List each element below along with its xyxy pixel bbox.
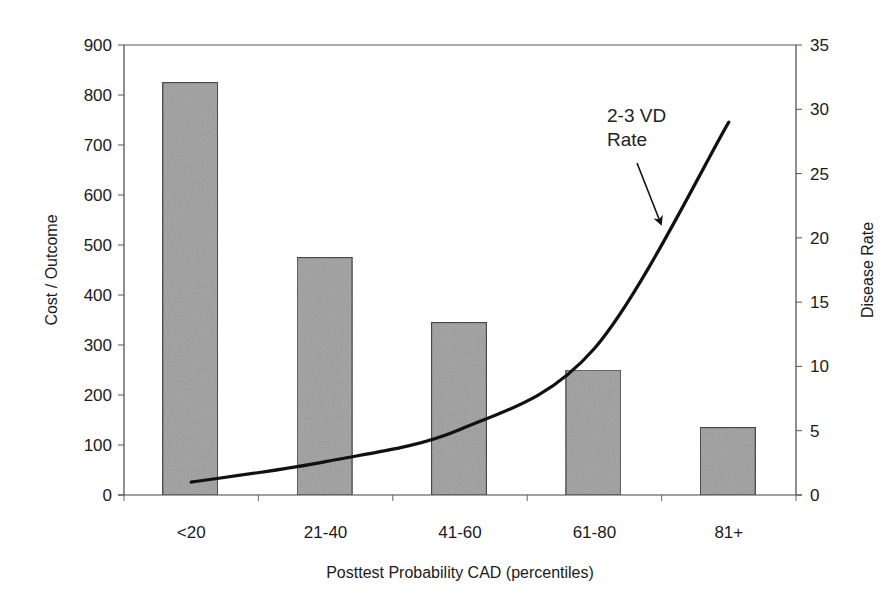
left-tick-label: 100: [84, 436, 112, 455]
x-axis-title: Posttest Probability CAD (percentiles): [326, 564, 594, 581]
right-tick-label: 5: [810, 422, 819, 441]
line-annotation: 2-3 VD Rate: [607, 105, 666, 224]
x-ticks: <2021-4041-6061-8081+: [124, 495, 796, 542]
right-tick-label: 0: [810, 486, 819, 505]
right-tick-label: 15: [810, 293, 829, 312]
right-y-ticks: 05101520253035: [796, 36, 829, 505]
disease-rate-curve: [191, 122, 729, 482]
x-tick-label: 41-60: [438, 523, 481, 542]
left-tick-label: 300: [84, 336, 112, 355]
left-y-axis-title: Cost / Outcome: [43, 214, 60, 325]
line-series: [191, 122, 729, 482]
right-tick-label: 30: [810, 100, 829, 119]
bar-series: [163, 83, 756, 496]
left-tick-label: 500: [84, 236, 112, 255]
left-tick-label: 900: [84, 36, 112, 55]
x-tick-label: 61-80: [573, 523, 616, 542]
x-tick-label: 21-40: [304, 523, 347, 542]
annotation-line2: Rate: [607, 129, 647, 150]
right-tick-label: 35: [810, 36, 829, 55]
bar: [700, 428, 755, 496]
left-tick-label: 200: [84, 386, 112, 405]
x-tick-label: 81+: [714, 523, 743, 542]
right-tick-label: 25: [810, 165, 829, 184]
left-y-ticks: 0100200300400500600700800900: [84, 36, 124, 505]
left-tick-label: 600: [84, 186, 112, 205]
bar: [566, 370, 621, 495]
bar: [432, 323, 487, 496]
left-tick-label: 700: [84, 136, 112, 155]
annotation-line1: 2-3 VD: [607, 105, 666, 126]
left-tick-label: 0: [103, 486, 112, 505]
right-y-axis-title: Disease Rate: [859, 222, 876, 318]
right-tick-label: 10: [810, 357, 829, 376]
annotation-arrow-icon: [637, 163, 661, 224]
left-tick-label: 800: [84, 86, 112, 105]
left-tick-label: 400: [84, 286, 112, 305]
right-tick-label: 20: [810, 229, 829, 248]
bar: [163, 83, 218, 496]
chart: 0100200300400500600700800900 05101520253…: [0, 0, 884, 616]
x-tick-label: <20: [177, 523, 206, 542]
